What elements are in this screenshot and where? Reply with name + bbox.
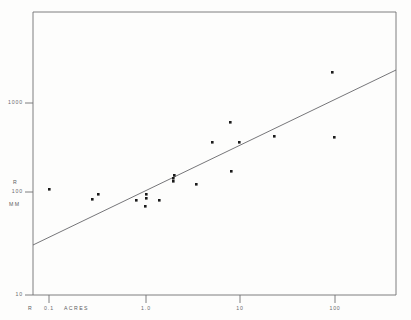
data-point — [135, 199, 138, 202]
data-point — [172, 180, 175, 183]
data-point — [331, 71, 334, 74]
y-tick-label-1000: 1000 — [2, 100, 23, 105]
data-point — [211, 141, 214, 144]
x-tick-label-1.0: 1.0 — [134, 306, 158, 311]
data-point — [145, 197, 148, 200]
data-point — [91, 198, 94, 201]
y-tick-label-10: 10 — [2, 292, 23, 297]
y-axis-ticks — [25, 103, 33, 295]
data-point — [230, 170, 233, 173]
data-point — [97, 193, 100, 196]
x-axis-units-label: ACRES — [64, 306, 89, 311]
plot-frame — [33, 12, 396, 295]
x-axis-ticks — [49, 295, 335, 303]
log-log-scatter-figure: 1000 100 10 R MM 0.1 1.0 10 100 R ACRES — [0, 0, 411, 320]
data-point — [158, 199, 161, 202]
x-axis-origin-symbol-label: R — [28, 306, 33, 311]
data-point — [145, 193, 148, 196]
data-point — [172, 177, 175, 180]
x-tick-label-100: 100 — [323, 306, 347, 311]
data-point — [333, 136, 336, 139]
data-point — [144, 205, 147, 208]
data-point — [273, 135, 276, 138]
regression-line — [33, 70, 396, 245]
plot-canvas — [0, 0, 411, 320]
data-point — [173, 174, 176, 177]
y-tick-label-100: 100 — [2, 189, 23, 194]
data-point — [48, 188, 51, 191]
x-tick-label-0.1: 0.1 — [37, 306, 61, 311]
data-point — [229, 121, 232, 124]
y-axis-units-label: MM — [9, 202, 20, 207]
data-point — [195, 183, 198, 186]
x-tick-label-10: 10 — [228, 306, 252, 311]
data-point — [238, 141, 241, 144]
scatter-points — [48, 71, 336, 208]
y-axis-symbol-label: R — [13, 180, 18, 185]
